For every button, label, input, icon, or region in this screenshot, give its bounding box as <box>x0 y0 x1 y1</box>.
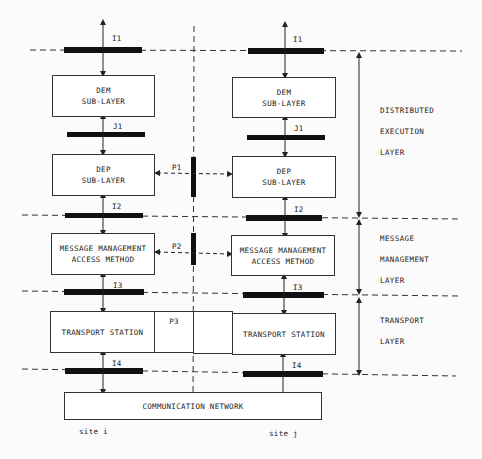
mm-label: MESSAGE MANAGEMENT <box>60 243 147 254</box>
site-i-dem-sublayer: DEM SUB-LAYER <box>52 75 155 117</box>
mm-label: MESSAGE MANAGEMENT <box>240 245 327 256</box>
dep-label: DEP <box>277 166 291 177</box>
distributed-execution-layer-label: DISTRIBUTED EXECUTION LAYER <box>380 100 434 163</box>
interface-i3-site-j: I3 <box>293 283 303 292</box>
transport-station-label: TRANSPORT STATION <box>243 329 325 340</box>
communication-network: COMMUNICATION NETWORK <box>64 392 322 420</box>
interface-i4-site-j: I4 <box>292 361 302 370</box>
am-label: ACCESS METHOD <box>72 254 135 265</box>
site-j-transport-station: TRANSPORT STATION <box>232 313 336 355</box>
protocol-p2: P2 <box>172 242 182 251</box>
site-i-message-management-access-method: MESSAGE MANAGEMENT ACCESS METHOD <box>51 233 155 275</box>
sublayer-label: SUB-LAYER <box>262 98 305 109</box>
sublayer-label: SUB-LAYER <box>82 96 125 107</box>
p3-label: P3 <box>169 316 179 327</box>
transport-layer-label: TRANSPORT LAYER <box>380 310 424 352</box>
site-i-label: site i <box>79 427 108 436</box>
network-label: COMMUNICATION NETWORK <box>142 401 243 412</box>
dep-label: DEP <box>96 164 110 175</box>
p3-right-segment <box>193 311 233 354</box>
interface-i1-site-j: I1 <box>293 35 303 44</box>
transport-station-label: TRANSPORT STATION <box>62 327 144 338</box>
interface-i2-site-j: I2 <box>294 205 304 214</box>
interface-i1-site-i: I1 <box>112 34 122 43</box>
interface-i3-site-i: I3 <box>113 281 123 290</box>
site-j-message-management-access-method: MESSAGE MANAGEMENT ACCESS METHOD <box>231 235 335 276</box>
message-management-layer-label: MESSAGE MANAGEMENT LAYER <box>380 228 429 291</box>
site-j-label: site j <box>269 429 298 438</box>
sublayer-label: SUB-LAYER <box>82 175 125 186</box>
am-label: ACCESS METHOD <box>252 256 315 267</box>
interface-j1-site-i: J1 <box>113 122 123 131</box>
dem-label: DEM <box>277 87 291 98</box>
interface-i4-site-i: I4 <box>112 359 122 368</box>
site-i-transport-station: TRANSPORT STATION <box>50 311 155 353</box>
site-i-dep-sublayer: DEP SUB-LAYER <box>52 154 155 196</box>
dem-label: DEM <box>96 85 110 96</box>
sublayer-label: SUB-LAYER <box>262 177 305 188</box>
interface-j1-site-j: J1 <box>294 124 304 133</box>
interface-i2-site-i: I2 <box>112 202 122 211</box>
protocol-p1: P1 <box>172 163 182 172</box>
site-j-dem-sublayer: DEM SUB-LAYER <box>232 77 336 118</box>
p3-left-segment: P3 <box>154 311 194 353</box>
site-j-dep-sublayer: DEP SUB-LAYER <box>232 156 336 198</box>
